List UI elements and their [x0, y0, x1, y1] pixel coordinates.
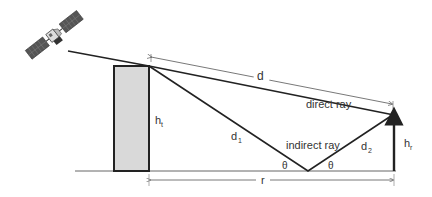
svg-text:2: 2 [368, 147, 372, 154]
svg-text:d: d [231, 130, 237, 142]
label-d2: d 2 [361, 140, 372, 154]
distance-d-dimension [151, 57, 392, 104]
label-d: d [257, 69, 264, 83]
label-r: r [261, 174, 265, 186]
indirect-ray-line [149, 66, 394, 171]
building [114, 66, 149, 171]
label-theta-right: θ [328, 160, 334, 171]
satellite-icon [25, 11, 85, 63]
svg-text:1: 1 [238, 137, 242, 144]
label-d1: d 1 [231, 130, 242, 144]
label-indirect-ray: indirect ray [286, 139, 340, 151]
svg-text:d: d [361, 140, 367, 152]
label-hr: h r [404, 137, 413, 151]
two-ray-diagram: d direct ray indirect ray h t d 1 d 2 h … [0, 0, 432, 197]
incoming-ray [68, 51, 149, 66]
label-theta-left: θ [282, 160, 288, 171]
label-ht: h t [155, 114, 163, 128]
label-direct-ray: direct ray [306, 98, 352, 110]
svg-text:t: t [161, 121, 163, 128]
svg-text:r: r [410, 144, 413, 151]
